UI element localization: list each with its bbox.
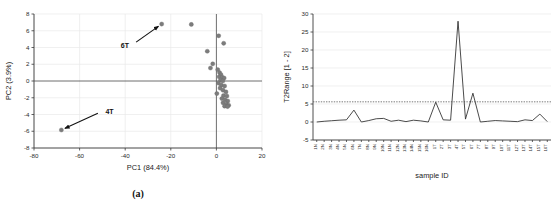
x-tick-label: 5T bbox=[461, 144, 466, 149]
x-tick-label: 6N bbox=[350, 144, 355, 150]
scatter-point bbox=[217, 34, 221, 38]
scatter-point bbox=[59, 128, 63, 132]
panel-a-y-axis-title: PC2 (3.9%) bbox=[4, 62, 13, 100]
panel-a-svg: 86420-2-4-6-8-80-60-40-20020 6T4T PC1 (8… bbox=[0, 0, 279, 180]
x-tick-label: 11T bbox=[506, 144, 511, 152]
svg-text:8: 8 bbox=[26, 10, 30, 17]
svg-text:-5: -5 bbox=[303, 136, 309, 143]
annotation-arrow bbox=[136, 26, 158, 42]
x-tick-label: 16T bbox=[543, 144, 548, 152]
scatter-point bbox=[189, 22, 193, 26]
x-tick-label: 15T bbox=[536, 144, 541, 152]
scatter-point bbox=[222, 41, 226, 45]
x-tick-label: 14T bbox=[528, 144, 533, 152]
svg-text:-60: -60 bbox=[75, 152, 85, 159]
scatter-point bbox=[225, 104, 229, 108]
x-tick-label: 7T bbox=[476, 144, 481, 149]
annotation-arrow bbox=[65, 113, 98, 128]
x-tick-label: 16N bbox=[424, 144, 429, 152]
x-tick-label: 4N bbox=[335, 144, 340, 150]
x-tick-label: 1T bbox=[432, 144, 437, 149]
panel-b-x-tick-labels: 1N2N3N4N5N6N7N8N9N10N11N12N13N14N15N16N1… bbox=[313, 140, 549, 152]
svg-text:-20: -20 bbox=[166, 152, 176, 159]
svg-text:-6: -6 bbox=[24, 127, 30, 134]
scatter-point bbox=[221, 79, 225, 83]
svg-text:20: 20 bbox=[302, 46, 309, 53]
x-tick-label: 10T bbox=[499, 144, 504, 152]
x-tick-label: 2T bbox=[439, 144, 444, 149]
panel-a-x-axis-title: PC1 (84.4%) bbox=[127, 163, 169, 172]
x-tick-label: 13N bbox=[402, 144, 407, 152]
x-tick-label: 13T bbox=[521, 144, 526, 152]
panel-b-series-line bbox=[317, 21, 548, 122]
scatter-point bbox=[205, 49, 209, 53]
x-tick-label: 3N bbox=[328, 144, 333, 150]
svg-text:-8: -8 bbox=[24, 144, 30, 151]
panel-b-line-chart: 302520151050-5 1N2N3N4N5N6N7N8N9N10N11N1… bbox=[279, 0, 558, 215]
svg-text:15: 15 bbox=[302, 64, 309, 71]
svg-text:30: 30 bbox=[302, 10, 309, 17]
x-tick-label: 8T bbox=[484, 144, 489, 149]
annotation-label: 4T bbox=[105, 108, 114, 115]
x-tick-label: 7N bbox=[357, 144, 362, 150]
x-tick-label: 6T bbox=[469, 144, 474, 149]
panel-a-annotations: 6T4T bbox=[65, 26, 158, 128]
x-tick-label: 3T bbox=[447, 144, 452, 149]
svg-text:0: 0 bbox=[305, 118, 309, 125]
x-tick-label: 12N bbox=[395, 144, 400, 152]
x-tick-label: 9T bbox=[491, 144, 496, 149]
x-tick-label: 2N bbox=[320, 144, 325, 150]
scatter-point bbox=[208, 66, 212, 70]
svg-text:10: 10 bbox=[302, 82, 309, 89]
scatter-point bbox=[225, 94, 229, 98]
x-tick-label: 15N bbox=[417, 144, 422, 152]
panel-a-data-points bbox=[59, 22, 231, 132]
svg-text:-4: -4 bbox=[24, 111, 30, 118]
panel-b-gridlines bbox=[313, 14, 551, 140]
svg-text:4: 4 bbox=[26, 44, 30, 51]
x-tick-label: 5N bbox=[342, 144, 347, 150]
scatter-point bbox=[160, 22, 164, 26]
svg-text:25: 25 bbox=[302, 28, 309, 35]
x-tick-label: 10N bbox=[380, 144, 385, 152]
svg-text:20: 20 bbox=[259, 152, 266, 159]
annotation-label: 6T bbox=[121, 42, 130, 49]
scatter-point bbox=[223, 84, 227, 88]
svg-text:2: 2 bbox=[26, 60, 30, 67]
panel-b-svg: 302520151050-5 1N2N3N4N5N6N7N8N9N10N11N1… bbox=[279, 0, 558, 180]
panel-b-y-axis-title: T2Range [1 - 2] bbox=[282, 51, 291, 102]
panel-a-scatter: 86420-2-4-6-8-80-60-40-20020 6T4T PC1 (8… bbox=[0, 0, 279, 215]
x-tick-label: 11N bbox=[387, 144, 392, 152]
panel-b-axes bbox=[313, 14, 551, 140]
svg-text:6: 6 bbox=[26, 27, 30, 34]
svg-text:-40: -40 bbox=[121, 152, 131, 159]
scatter-point bbox=[215, 91, 219, 95]
x-tick-label: 14N bbox=[409, 144, 414, 152]
svg-text:-80: -80 bbox=[30, 152, 40, 159]
x-tick-label: 12T bbox=[514, 144, 519, 152]
x-tick-label: 9N bbox=[372, 144, 377, 150]
panel-a-ticks: 86420-2-4-6-8-80-60-40-20020 bbox=[24, 10, 266, 159]
svg-text:5: 5 bbox=[305, 100, 309, 107]
svg-text:0: 0 bbox=[215, 152, 219, 159]
figure-container: 86420-2-4-6-8-80-60-40-20020 6T4T PC1 (8… bbox=[0, 0, 558, 215]
scatter-point bbox=[224, 90, 228, 94]
svg-text:0: 0 bbox=[26, 77, 30, 84]
x-tick-label: 1N bbox=[313, 144, 318, 150]
caption-a: (a) bbox=[108, 188, 168, 199]
x-tick-label: 8N bbox=[365, 144, 370, 150]
panel-b-ticks: 302520151050-5 bbox=[302, 10, 313, 143]
svg-text:-2: -2 bbox=[24, 94, 30, 101]
scatter-point bbox=[211, 62, 215, 66]
panel-b-x-axis-title: sample ID bbox=[415, 171, 448, 180]
x-tick-label: 4T bbox=[454, 144, 459, 149]
